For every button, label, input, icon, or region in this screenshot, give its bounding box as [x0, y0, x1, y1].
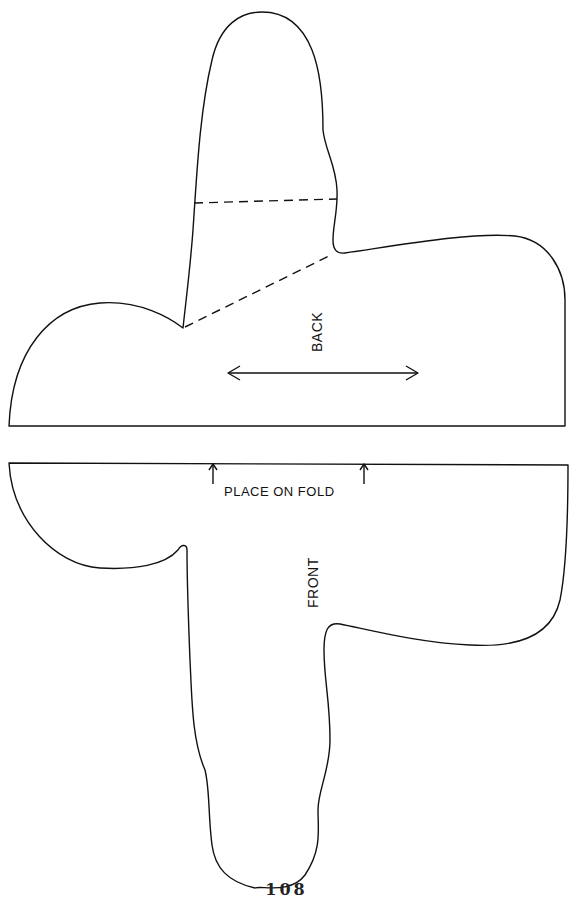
fold-arrow-right-icon: [360, 464, 368, 484]
back-label: BACK: [309, 312, 325, 352]
back-dashed-wrist-line: [194, 199, 337, 203]
mitten-pattern: BACK PLACE ON FOLD FRONT: [0, 0, 573, 924]
place-on-fold-label: PLACE ON FOLD: [224, 484, 335, 499]
front-label: FRONT: [305, 557, 321, 608]
page-number: 108: [0, 880, 573, 899]
back-piece-outline: [9, 12, 565, 426]
front-piece-outline: [9, 463, 568, 888]
grainline-arrow-icon: [228, 366, 418, 380]
fold-arrow-left-icon: [209, 464, 217, 484]
